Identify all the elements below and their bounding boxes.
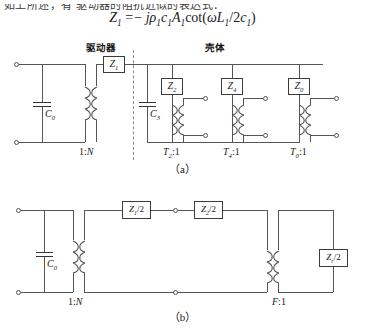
wire-xfmrF-sec-bot-b bbox=[278, 283, 279, 292]
wire-zr-top-b bbox=[333, 210, 334, 249]
impedance-formula: Z1 = − jρ1c1A1cot(ωL1/2c1) bbox=[0, 10, 365, 28]
wire-top-input-a bbox=[19, 64, 85, 65]
wire-c0-top-b bbox=[44, 210, 45, 252]
wire-z0-drop-a bbox=[299, 64, 300, 78]
wire-t4-sec-bot-a bbox=[243, 135, 244, 142]
inductor-xfmr1-secondary-a bbox=[91, 86, 103, 122]
ratio-1n-b: 1:N bbox=[68, 296, 82, 307]
wire-xfmr1-prim-top-b bbox=[73, 210, 74, 240]
inductor-t0-secondary-a bbox=[305, 104, 317, 136]
output-terminal-t2-bot-a bbox=[203, 133, 208, 138]
ratio-t4-a: T4:1 bbox=[223, 146, 240, 159]
wire-bottom-mid-a bbox=[147, 142, 172, 143]
impedance-box-z2-a: Z2 bbox=[161, 78, 183, 95]
wire-t2-out-bot-a bbox=[183, 135, 203, 136]
capacitor-c0-label-b: C0 bbox=[47, 258, 57, 271]
caption-a: （a） bbox=[0, 160, 365, 176]
figure-page: 如上所述，有 驱动器的阻抗近似的表达式： Z1 = − jρ1c1A1cot(ω… bbox=[0, 0, 365, 336]
wire-t4-sec-top-a bbox=[243, 98, 244, 105]
impedance-box-z1half-b: Z1/2 bbox=[122, 201, 151, 219]
wire-z2-left-b bbox=[178, 210, 194, 211]
impedance-box-z0-a: Z0 bbox=[288, 78, 310, 95]
mid-node-terminal-bottom-b bbox=[173, 290, 178, 295]
capacitor-c0-label-a: C0 bbox=[45, 108, 55, 121]
wire-t2-sec-bot-a bbox=[183, 135, 184, 142]
wire-xfmr1-sec-top-b bbox=[84, 210, 85, 240]
inductor-t4-secondary-a bbox=[238, 104, 250, 136]
output-terminal-t0-top-a bbox=[334, 96, 339, 101]
wire-xfmr1-sec-bot-a bbox=[96, 120, 97, 142]
wire-z2-right-b bbox=[223, 210, 267, 211]
wire-c3-top-a bbox=[147, 64, 148, 102]
inductor-xfmr1-secondary-b bbox=[79, 240, 91, 274]
wire-t2-out-top-a bbox=[183, 98, 203, 99]
wire-c0-bottom-b bbox=[44, 257, 45, 292]
wire-out-bottom-b bbox=[278, 292, 333, 293]
impedance-box-zrhalf-b: Zr/2 bbox=[319, 249, 348, 267]
ratio-t2-a: T2:1 bbox=[163, 146, 180, 159]
wire-xfmr1-prim-bot-a bbox=[85, 120, 86, 142]
inductor-t4-primary-a bbox=[226, 104, 238, 136]
wire-c3-bottom-a bbox=[147, 107, 148, 142]
ratio-t0-a: T0:1 bbox=[290, 146, 307, 159]
output-terminal-t2-top-a bbox=[203, 96, 208, 101]
wire-z2-drop-a bbox=[172, 64, 173, 78]
wire-c0-top-a bbox=[42, 64, 43, 102]
inductor-t0-primary-a bbox=[293, 104, 305, 136]
wire-top-input-b bbox=[21, 210, 73, 211]
section-divider-dashed bbox=[133, 50, 134, 160]
wire-t4-out-bot-a bbox=[243, 135, 263, 136]
inductor-xfmr1-primary-b bbox=[67, 240, 79, 274]
wire-t4-out-top-a bbox=[243, 98, 263, 99]
wire-xfmrF-prim-bot-b bbox=[267, 283, 268, 292]
wire-bottom-input-b bbox=[21, 292, 73, 293]
wire-t2-sec-top-a bbox=[183, 98, 184, 105]
wire-z1-right-b bbox=[151, 210, 173, 211]
wire-bottom-input-a bbox=[19, 142, 85, 143]
inductor-xfmrF-secondary-b bbox=[273, 250, 285, 284]
inductor-xfmr1-primary-a bbox=[79, 86, 91, 122]
wire-z1-left-a bbox=[96, 64, 103, 65]
output-terminal-t4-bot-a bbox=[263, 133, 268, 138]
wire-z1-right-a bbox=[125, 64, 147, 65]
wire-t0-out-bot-a bbox=[310, 135, 334, 136]
wire-top-rail-right-a bbox=[147, 64, 323, 65]
wire-t0-out-top-a bbox=[310, 98, 334, 99]
inductor-t2-primary-a bbox=[166, 104, 178, 136]
wire-xfmr1-prim-bot-b bbox=[73, 273, 74, 292]
impedance-box-z2half-b: Z2/2 bbox=[194, 201, 223, 219]
driver-label: 驱动器 bbox=[86, 40, 116, 54]
wire-zr-bottom-b bbox=[333, 267, 334, 292]
caption-b: （b） bbox=[0, 308, 365, 324]
output-terminal-t4-top-a bbox=[263, 96, 268, 101]
formula-text: Z1 = − jρ1c1A1cot(ωL1/2c1) bbox=[109, 10, 256, 25]
ratio-1n-a: 1:N bbox=[79, 146, 93, 157]
wire-xfmrF-sec-top-b bbox=[278, 210, 279, 250]
wire-xfmr1-sec-bot-b bbox=[84, 273, 85, 292]
wire-z1-left-b bbox=[84, 210, 122, 211]
wire-t0-sec-top-a bbox=[310, 98, 311, 105]
housing-label: 壳体 bbox=[205, 40, 225, 54]
wire-z4-drop-a bbox=[232, 64, 233, 78]
capacitor-c3-label-a: C3 bbox=[150, 108, 160, 121]
wire-xfmrF-prim-top-b bbox=[267, 210, 268, 250]
wire-t0-sec-bot-a bbox=[310, 135, 311, 142]
wire-bottom-rail-right-a bbox=[172, 142, 300, 143]
inductor-t2-secondary-a bbox=[178, 104, 190, 136]
wire-xfmr1-prim-top-a bbox=[85, 64, 86, 86]
wire-xfmr1-sec-top-a bbox=[96, 64, 97, 86]
inductor-xfmrF-primary-b bbox=[261, 250, 273, 284]
wire-out-top-b bbox=[278, 210, 333, 211]
impedance-box-z1-a: Z1 bbox=[103, 56, 125, 73]
impedance-box-z4-a: Z4 bbox=[221, 78, 243, 95]
ratio-f1-b: F:1 bbox=[272, 296, 286, 307]
wire-c0-bottom-a bbox=[42, 107, 43, 142]
output-terminal-t0-bot-a bbox=[334, 133, 339, 138]
